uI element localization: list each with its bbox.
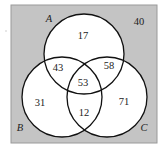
region-a-b-c: 53 xyxy=(78,77,89,88)
region-outside: 40 xyxy=(134,16,145,27)
region-b-and-c: 12 xyxy=(79,107,90,118)
region-a-and-b: 43 xyxy=(53,62,64,73)
set-label-b: B xyxy=(17,122,24,133)
margin-dot xyxy=(5,30,6,31)
region-a-only: 17 xyxy=(78,30,89,41)
set-label-c: C xyxy=(140,122,148,133)
region-b-only: 31 xyxy=(35,97,46,108)
region-c-only: 71 xyxy=(119,96,130,107)
region-a-and-c: 58 xyxy=(104,60,115,71)
set-label-a: A xyxy=(45,13,53,24)
venn-diagram: A B C 40 17 43 58 53 31 71 12 xyxy=(0,0,164,158)
